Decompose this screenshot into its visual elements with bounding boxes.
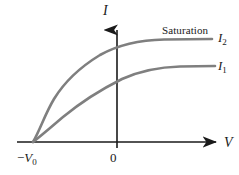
curve-i2-label: I2	[218, 31, 227, 44]
saturation-annotation: Saturation	[162, 25, 208, 36]
curve-i1-label: I1	[218, 59, 227, 72]
x-axis-stopping-voltage-label: −V0	[17, 151, 37, 164]
curve-i2-subscript: 2	[222, 37, 227, 47]
x-axis-label: V	[224, 136, 233, 150]
curve-i1-subscript: 1	[222, 65, 227, 75]
stopping-voltage-subscript: 0	[32, 157, 37, 167]
curve-i1	[33, 66, 215, 142]
photoelectric-current-voltage-figure: I V 0 −V0 Saturation I2 I1	[0, 0, 239, 175]
y-axis-label: I	[103, 4, 108, 18]
x-axis-origin-tick-label: 0	[110, 151, 117, 164]
curve-i2	[33, 39, 212, 142]
